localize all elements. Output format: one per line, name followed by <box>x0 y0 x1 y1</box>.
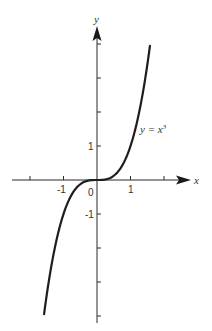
x-tick-label-neg1: -1 <box>57 184 66 195</box>
y-tick-label-neg1: -1 <box>85 209 94 220</box>
y-tick-label-1: 1 <box>88 141 94 152</box>
y-axis-label: y <box>93 13 99 25</box>
x-axis-label: x <box>193 174 199 186</box>
cubic-function-plot: x -1 0 1 y 1 -1 y = x3 <box>0 0 212 331</box>
x-axis: x -1 0 1 <box>12 174 199 198</box>
y-axis: y 1 -1 <box>85 13 102 323</box>
x-tick-label-0: 0 <box>88 187 94 198</box>
x-tick-label-1: 1 <box>128 184 134 195</box>
curve-label: y = x3 <box>139 123 167 135</box>
curve-label-exponent: 3 <box>162 123 167 131</box>
curve-label-base: y = x <box>139 123 163 135</box>
